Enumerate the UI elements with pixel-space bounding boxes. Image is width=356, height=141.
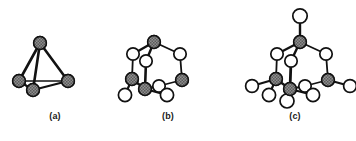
panel-b-structure — [118, 36, 188, 102]
heavy-atom-texture — [176, 74, 189, 87]
hydrogen-atom — [127, 48, 139, 60]
hydrogen-atom — [293, 9, 307, 23]
heavy-atom-texture — [284, 83, 297, 96]
panel-c-atoms — [246, 9, 356, 108]
panel-a-structure — [13, 37, 75, 97]
heavy-atom-texture — [13, 75, 26, 88]
hydrogen-atom — [344, 80, 356, 93]
heavy-atom-texture — [270, 73, 283, 86]
heavy-atom-texture — [34, 37, 47, 50]
hydrogen-atom — [246, 80, 259, 93]
heavy-atom-texture — [322, 74, 335, 87]
panel-caption-c: (c) — [240, 111, 350, 121]
hydrogen-atom — [320, 48, 332, 60]
hydrogen-atom — [262, 88, 275, 101]
heavy-atom-texture — [148, 36, 161, 49]
heavy-atom-texture — [139, 83, 152, 96]
heavy-atom-texture — [126, 73, 139, 86]
panel-c-structure — [246, 9, 356, 108]
hydrogen-atom — [280, 94, 294, 108]
hydrogen-atom — [140, 55, 152, 67]
hydrogen-atom — [285, 55, 297, 67]
hydrogen-atom — [271, 48, 283, 60]
hydrogen-atom — [160, 88, 173, 101]
heavy-atom-texture — [27, 84, 40, 97]
heavy-atom-texture — [294, 36, 307, 49]
panel-caption-b: (b) — [113, 111, 223, 121]
hydrogen-atom — [306, 88, 319, 101]
figure-root: (a) (b) (c) — [0, 0, 356, 141]
panel-a-bonds — [19, 43, 68, 90]
heavy-atom-texture — [62, 75, 75, 88]
panel-caption-a: (a) — [0, 111, 110, 121]
hydrogen-atom — [174, 48, 186, 60]
hydrogen-atom — [118, 88, 131, 101]
